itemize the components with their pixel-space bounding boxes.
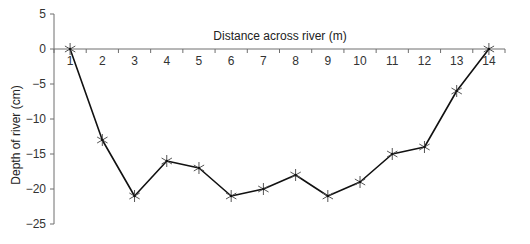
y-tick-label: −15 bbox=[26, 147, 47, 161]
x-tick-label: 2 bbox=[99, 54, 106, 68]
y-axis: 50−5−10−15−20−25 bbox=[26, 7, 54, 231]
x-tick-label: 4 bbox=[163, 54, 170, 68]
chart-canvas: 50−5−10−15−20−25 1234567891011121314 Dis… bbox=[0, 0, 530, 244]
x-tick-label: 12 bbox=[418, 54, 432, 68]
x-tick-label: 6 bbox=[228, 54, 235, 68]
y-tick-label: −5 bbox=[32, 77, 46, 91]
x-tick-label: 11 bbox=[386, 54, 399, 68]
x-tick-label: 3 bbox=[131, 54, 138, 68]
x-tick-label: 7 bbox=[260, 54, 267, 68]
asterisk-marker-icon bbox=[323, 190, 333, 202]
x-tick-label: 8 bbox=[292, 54, 299, 68]
asterisk-marker-icon bbox=[97, 134, 107, 146]
y-tick-label: −25 bbox=[26, 217, 47, 231]
y-tick-label: −20 bbox=[26, 182, 47, 196]
x-tick-label: 5 bbox=[196, 54, 203, 68]
asterisk-marker-icon bbox=[290, 169, 300, 181]
depth-line bbox=[70, 49, 489, 196]
x-tick-label: 13 bbox=[450, 54, 464, 68]
y-tick-label: 5 bbox=[39, 7, 46, 21]
x-axis-title: Distance across river (m) bbox=[213, 29, 346, 43]
x-tick-label: 9 bbox=[324, 54, 331, 68]
y-tick-label: −10 bbox=[26, 112, 47, 126]
x-axis: 1234567891011121314 bbox=[54, 49, 505, 68]
y-tick-label: 0 bbox=[39, 42, 46, 56]
y-axis-title: Depth of river (cm) bbox=[9, 85, 23, 184]
river-depth-chart: 50−5−10−15−20−25 1234567891011121314 Dis… bbox=[0, 0, 530, 244]
x-tick-label: 10 bbox=[353, 54, 367, 68]
